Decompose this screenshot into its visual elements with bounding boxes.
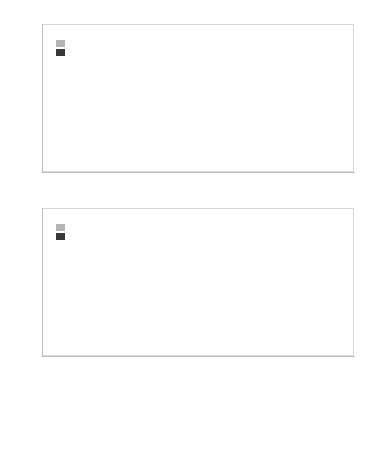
legend-item-imports-1968	[56, 224, 68, 231]
imports-x-tick-marks	[43, 357, 354, 361]
imports-chart-panel	[0, 198, 368, 378]
legend-item-exports-1968	[56, 40, 68, 47]
legend-swatch-exports-1968	[56, 40, 65, 47]
legend-swatch-exports-2001	[56, 49, 65, 56]
exports-chart-panel	[0, 14, 368, 192]
legend-item-exports-2001	[56, 49, 68, 56]
legend-item-imports-2001	[56, 233, 68, 240]
legend-swatch-imports-1968	[56, 224, 65, 231]
legend-swatch-imports-2001	[56, 233, 65, 240]
exports-x-tick-marks	[43, 173, 354, 177]
imports-legend	[56, 224, 68, 240]
figure	[0, 0, 368, 472]
category-axis-labels	[43, 380, 354, 472]
exports-bars-area	[43, 25, 354, 172]
exports-legend	[56, 40, 68, 56]
imports-bars-area	[43, 209, 354, 356]
